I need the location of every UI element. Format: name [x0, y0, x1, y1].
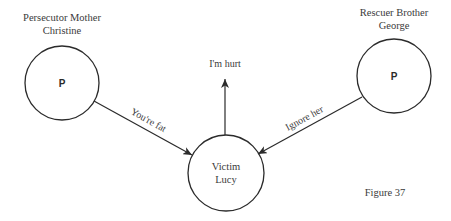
arrow-line: [258, 97, 362, 154]
edge-mother-to-victim: You're fat: [94, 101, 192, 155]
node-symbol: P: [59, 78, 66, 89]
node-role-label: Rescuer Brother: [360, 7, 429, 18]
node-victim: Victim Lucy: [188, 135, 264, 211]
edge-label: You're fat: [129, 106, 169, 135]
node-name-label: Christine: [43, 25, 82, 36]
drama-triangle-diagram: Persecutor Mother Christine P Rescuer Br…: [0, 0, 451, 221]
node-name-label: George: [379, 20, 410, 31]
arrow-line: [94, 101, 192, 155]
node-role-label: Persecutor Mother: [23, 12, 101, 23]
edge-label: I'm hurt: [209, 58, 241, 69]
node-rescuer-brother: Rescuer Brother George P: [357, 7, 431, 113]
node-symbol: P: [391, 71, 398, 82]
figure-caption: Figure 37: [365, 187, 406, 198]
node-circle: [188, 135, 264, 211]
edge-brother-to-victim: Ignore her: [258, 97, 362, 154]
node-persecutor-mother: Persecutor Mother Christine P: [23, 12, 101, 120]
node-name-label: Lucy: [215, 174, 237, 185]
edge-victim-out: I'm hurt: [209, 58, 241, 135]
node-role-label: Victim: [212, 161, 241, 172]
